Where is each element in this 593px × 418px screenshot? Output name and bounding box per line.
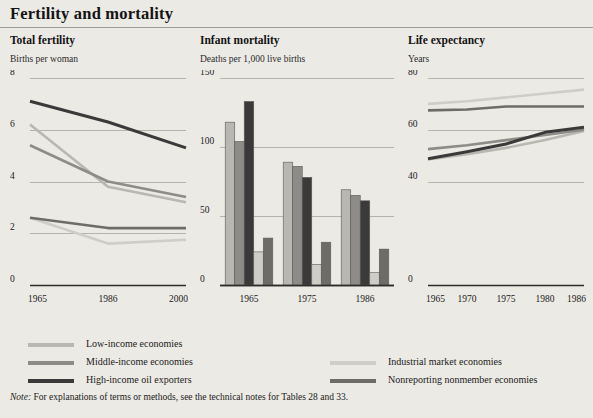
y-tick-label-40: 40 [408, 171, 418, 181]
bar-middle_income-1986 [351, 195, 361, 285]
plot-area-infant-mortality: 050100150196519751986 [200, 70, 396, 319]
legend: Low-income economiesMiddle-income econom… [0, 338, 593, 386]
footnote-prefix: Note: [10, 392, 31, 402]
bar-nonreporting-1965 [263, 238, 273, 285]
x-tick-label-1975: 1975 [298, 294, 317, 304]
series-line-industrial_market [428, 90, 584, 104]
y-tick-label-100: 100 [200, 136, 215, 146]
legend-swatch-low_income [28, 343, 74, 347]
x-tick-label-1965: 1965 [426, 294, 445, 304]
x-tick-label-1986: 1986 [567, 294, 586, 304]
y-tick-label-4: 4 [10, 171, 15, 181]
y-tick-label-8: 8 [10, 70, 15, 77]
bar-industrial_market-1975 [312, 264, 322, 285]
x-tick-label-2000: 2000 [169, 294, 188, 304]
y-tick-label-50: 50 [200, 205, 210, 215]
bar-low_income-1986 [341, 190, 351, 285]
chart-svg-infant-mortality: 050100150196519751986 [200, 70, 396, 319]
legend-label-middle_income: Middle-income economies [86, 356, 193, 367]
bar-high_income_oil-1986 [360, 201, 370, 285]
bar-high_income_oil-1965 [244, 101, 254, 285]
y-tick-label-80: 80 [408, 70, 418, 77]
panel-infant-mortality: Infant mortalityDeaths per 1,000 live bi… [200, 34, 396, 314]
panel-life-expectancy: Life expectancyYears04060801965197019751… [408, 34, 586, 314]
bar-high_income_oil-1975 [302, 177, 312, 285]
y-tick-label-6: 6 [10, 119, 15, 129]
x-tick-label-1986: 1986 [356, 294, 375, 304]
panel-title-total-fertility: Total fertility [10, 34, 75, 46]
chart-svg-life-expectancy: 040608019651970197519801986 [408, 70, 586, 319]
legend-label-low_income: Low-income economies [86, 338, 182, 349]
bar-middle_income-1975 [293, 166, 303, 285]
chart-page: Fertility and mortality Total fertilityB… [0, 0, 593, 418]
series-line-high_income_oil [30, 101, 186, 148]
legend-swatch-industrial_market [330, 361, 376, 365]
panel-axis-label-total-fertility: Births per woman [10, 54, 78, 64]
page-title: Fertility and mortality [10, 4, 173, 24]
chart-svg-total-fertility: 02468196519862000 [10, 70, 188, 319]
series-line-low_income [30, 125, 186, 203]
legend-swatch-nonreporting [330, 379, 376, 383]
bar-middle_income-1965 [235, 141, 245, 285]
legend-label-high_income_oil: High-income oil exporters [86, 374, 192, 385]
x-tick-label-1970: 1970 [458, 294, 477, 304]
legend-swatch-middle_income [28, 361, 74, 365]
x-tick-label-1975: 1975 [497, 294, 516, 304]
plot-area-total-fertility: 02468196519862000 [10, 70, 188, 319]
y-tick-label-0: 0 [408, 274, 413, 284]
panel-axis-label-life-expectancy: Years [408, 54, 429, 64]
bar-low_income-1975 [283, 162, 293, 285]
title-divider [0, 27, 593, 28]
y-tick-label-2: 2 [10, 222, 15, 232]
plot-area-life-expectancy: 040608019651970197519801986 [408, 70, 586, 319]
bar-low_income-1965 [225, 122, 235, 285]
bar-industrial_market-1965 [254, 252, 264, 285]
y-tick-label-0: 0 [200, 274, 205, 284]
series-line-nonreporting [428, 106, 584, 110]
footnote-text: For explanations of terms or methods, se… [33, 392, 348, 402]
y-tick-label-150: 150 [200, 70, 215, 77]
footnote: Note: For explanations of terms or metho… [10, 392, 348, 402]
bar-industrial_market-1986 [370, 273, 380, 285]
panel-total-fertility: Total fertilityBirths per woman024681965… [10, 34, 188, 314]
series-line-middle_income [30, 145, 186, 197]
legend-label-nonreporting: Nonreporting nonmember economies [388, 374, 537, 385]
legend-swatch-high_income_oil [28, 379, 74, 383]
x-tick-label-1965: 1965 [240, 294, 259, 304]
bar-nonreporting-1986 [379, 249, 389, 285]
panel-title-life-expectancy: Life expectancy [408, 34, 485, 46]
x-tick-label-1965: 1965 [28, 294, 47, 304]
panel-title-infant-mortality: Infant mortality [200, 34, 280, 46]
y-tick-label-0: 0 [10, 274, 15, 284]
bar-nonreporting-1975 [321, 242, 331, 285]
panel-axis-label-infant-mortality: Deaths per 1,000 live births [200, 54, 305, 64]
legend-label-industrial_market: Industrial market economies [388, 356, 502, 367]
y-tick-label-60: 60 [408, 119, 418, 129]
series-line-middle_income [428, 130, 584, 149]
x-tick-label-1980: 1980 [536, 294, 555, 304]
x-tick-label-1986: 1986 [99, 294, 118, 304]
